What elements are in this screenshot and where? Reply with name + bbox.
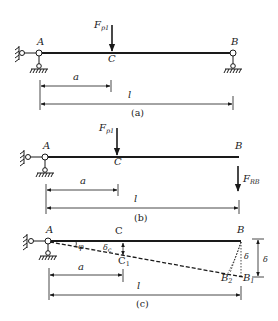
dim-l-label: l <box>134 193 137 204</box>
angle-label: φ <box>78 242 84 251</box>
caption-b: (b) <box>134 212 148 223</box>
delta-dim-label: δ <box>263 255 268 264</box>
label-c-point: C <box>115 225 123 236</box>
label-a-point: A <box>42 140 50 151</box>
fixed-wall-icon <box>23 234 45 250</box>
label-c1-point: C1 <box>118 255 130 268</box>
reaction-label: FRB <box>242 173 260 186</box>
label-a-point: A <box>45 224 53 235</box>
dim-a-label: a <box>73 71 79 82</box>
dim-a-label: a <box>80 175 86 186</box>
dim-l-label: l <box>137 280 140 291</box>
label-b-point: B <box>230 36 238 47</box>
label-b1-point: B1 <box>242 272 255 285</box>
rotation-arc-b <box>228 242 241 273</box>
delta-b-label: δ <box>244 252 249 261</box>
label-c-point: C <box>114 156 122 167</box>
diagram-a: Fp1 A B C a l (a) <box>15 19 242 118</box>
diagram-b: Fp1 FRB A B C a l (b) <box>20 122 260 223</box>
dim-a-label: a <box>78 261 84 272</box>
label-b-point: B <box>236 224 244 235</box>
diagram-c: φ δc C C1 A B B1 B2 δ δ a l (c) <box>23 224 268 309</box>
fixed-wall-icon <box>20 150 42 166</box>
beam-diagram-figure: Fp1 A B C a l (a) <box>0 0 278 321</box>
dim-l-label: l <box>128 89 131 100</box>
caption-c: (c) <box>136 298 149 309</box>
force-label: Fp1 <box>98 122 114 135</box>
caption-a: (a) <box>131 107 144 118</box>
label-b-point: B <box>234 140 242 151</box>
fixed-wall-icon <box>15 46 37 62</box>
force-label: Fp1 <box>93 19 109 32</box>
label-a-point: A <box>36 36 44 47</box>
label-b2-point: B2 <box>220 272 233 285</box>
label-c-point: C <box>108 53 116 64</box>
